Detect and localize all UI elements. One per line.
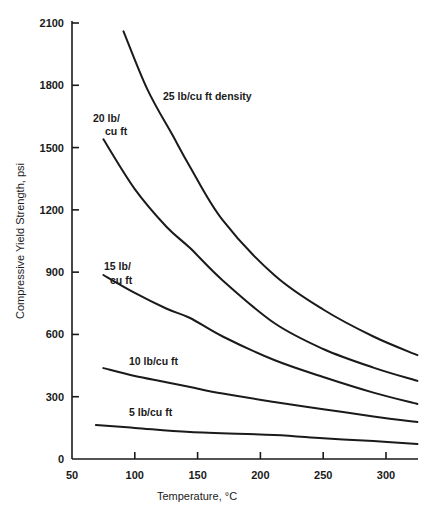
curve-label: 10 lb/cu ft: [129, 355, 179, 367]
x-tick-label: 100: [126, 469, 144, 481]
x-tick-label: 50: [66, 469, 78, 481]
y-axis-title: Compressive Yield Strength, psi: [14, 163, 26, 319]
curves: [96, 31, 418, 444]
axes: [72, 21, 418, 459]
curve-25-lb: [124, 31, 418, 355]
y-tick-label: 0: [58, 453, 64, 465]
x-tick-label: 150: [188, 469, 206, 481]
y-tick-label: 900: [46, 266, 64, 278]
y-tick-label: 1200: [40, 204, 64, 216]
curve-labels: 25 lb/cu ft density20 lb/cu ft15 lb/cu f…: [93, 90, 252, 418]
x-tick-label: 200: [251, 469, 269, 481]
compressive-strength-chart: 03006009001200150018002100 5010015020025…: [0, 0, 436, 519]
y-tick-label: 600: [46, 328, 64, 340]
x-axis-ticks: 50100150200250300: [66, 452, 395, 481]
curve-5-lb: [96, 425, 418, 444]
y-tick-label: 1500: [40, 142, 64, 154]
curve-label: 20 lb/: [93, 112, 120, 124]
x-axis-title: Temperature, °C: [157, 490, 237, 502]
curve-15-lb: [103, 275, 417, 404]
curve-label: cu ft: [110, 274, 133, 286]
curve-label: 25 lb/cu ft density: [163, 90, 252, 102]
y-tick-label: 300: [46, 391, 64, 403]
curve-label: cu ft: [105, 125, 128, 137]
curve-label: 5 lb/cu ft: [129, 406, 173, 418]
y-tick-label: 1800: [40, 79, 64, 91]
y-tick-label: 2100: [40, 17, 64, 29]
y-axis-ticks: 03006009001200150018002100: [40, 17, 79, 465]
x-tick-label: 250: [314, 469, 332, 481]
curve-label: 15 lb/: [104, 260, 131, 272]
x-tick-label: 300: [377, 469, 395, 481]
curve-20-lb: [103, 139, 417, 381]
